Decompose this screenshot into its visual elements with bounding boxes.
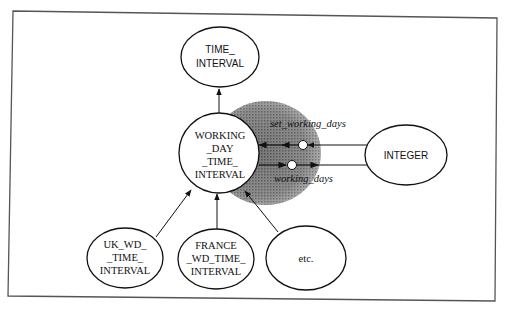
- svg-text:_TIME_: _TIME_: [106, 252, 144, 263]
- setter-port-icon: [299, 141, 308, 150]
- svg-text:INTEGER: INTEGER: [384, 150, 428, 161]
- node-etc: etc.: [266, 226, 346, 290]
- edge-uk-to-working: [156, 190, 191, 237]
- svg-text:_DAY: _DAY: [205, 143, 233, 154]
- svg-text:INTERVAL: INTERVAL: [100, 265, 150, 276]
- node-uk-wd-time-interval: UK_WD_ _TIME_ INTERVAL: [87, 228, 163, 288]
- svg-text:etc.: etc.: [299, 253, 314, 264]
- svg-text:_WD_TIME_: _WD_TIME_: [186, 253, 247, 264]
- getter-port-icon: [288, 161, 297, 170]
- svg-text:INTERVAL: INTERVAL: [195, 169, 245, 180]
- node-integer: INTEGER: [365, 125, 447, 185]
- node-time-interval: TIME_ INTERVAL: [181, 27, 259, 87]
- svg-text:INTERVAL: INTERVAL: [196, 58, 244, 69]
- label-set-working-days: set_working_days: [270, 118, 346, 129]
- node-working-day-time-interval: WORKING _DAY _TIME_ INTERVAL: [179, 113, 259, 193]
- svg-text:UK_WD_: UK_WD_: [103, 239, 147, 250]
- svg-text:TIME_: TIME_: [205, 44, 235, 55]
- svg-text:_TIME_: _TIME_: [201, 156, 239, 167]
- node-france-wd-time-interval: FRANCE _WD_TIME_ INTERVAL: [178, 229, 254, 289]
- svg-text:WORKING: WORKING: [195, 130, 246, 141]
- svg-text:FRANCE: FRANCE: [195, 240, 236, 251]
- svg-text:INTERVAL: INTERVAL: [191, 266, 241, 277]
- label-working-days: working_days: [274, 173, 333, 184]
- diagram-canvas: set_working_days working_days TIME_ INTE…: [0, 0, 507, 312]
